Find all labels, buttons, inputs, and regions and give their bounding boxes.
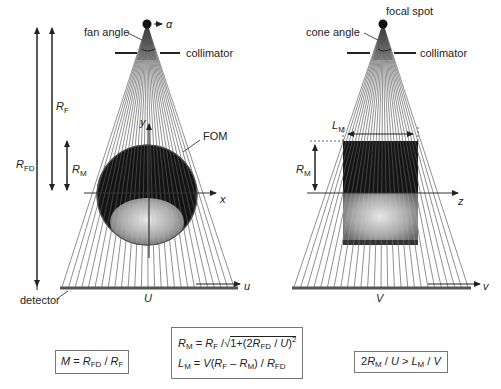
cone-beam-panel: focal spot cone angle collimator LM RM z… [292,5,490,304]
focal-spot-label: focal spot [386,5,433,17]
lm-formula: LM = V(RF – RM) / RFD [178,355,296,375]
v-axis-label: v [483,280,490,292]
rf-label: RF [56,100,69,115]
detector-width-label-V: V [376,292,385,304]
alpha-label: α [166,18,173,30]
y-axis-label: y [139,116,147,128]
rm-label-left: RM [72,163,87,178]
condition-formula: 2RM / U > LM / V [354,351,448,373]
cone-angle-label: cone angle [306,26,360,38]
rfd-label: RFD [16,158,35,173]
cone-angle-pointer [364,33,378,40]
x-axis-label: x [219,193,226,205]
rm-label-right: RM [296,163,311,178]
rm-formula: RM = RF /√1+(2RFD / U)2 [178,331,296,355]
collimator-label-right: collimator [420,47,467,59]
u-axis-label: u [244,280,250,292]
fom-label: FOM [203,130,227,142]
fan-beam-panel: α fan angle collimator FOM y x u U detec… [16,18,250,306]
magnification-formula: M = RFD / RF [55,350,129,374]
x-ray-source-icon [143,20,152,29]
fan-angle-pointer [128,33,142,40]
fom-pointer [183,140,200,152]
focal-spot-icon [379,20,388,29]
fan-angle-label: fan angle [84,26,129,38]
detector-width-label-U: U [144,292,152,304]
lm-label: LM [332,119,345,134]
z-axis-label: z [457,195,464,207]
rm-lm-formulas: RM = RF /√1+(2RFD / U)2 LM = V(RF – RM) … [171,327,303,379]
detector-label: detector [20,294,60,306]
collimator-label: collimator [186,47,233,59]
